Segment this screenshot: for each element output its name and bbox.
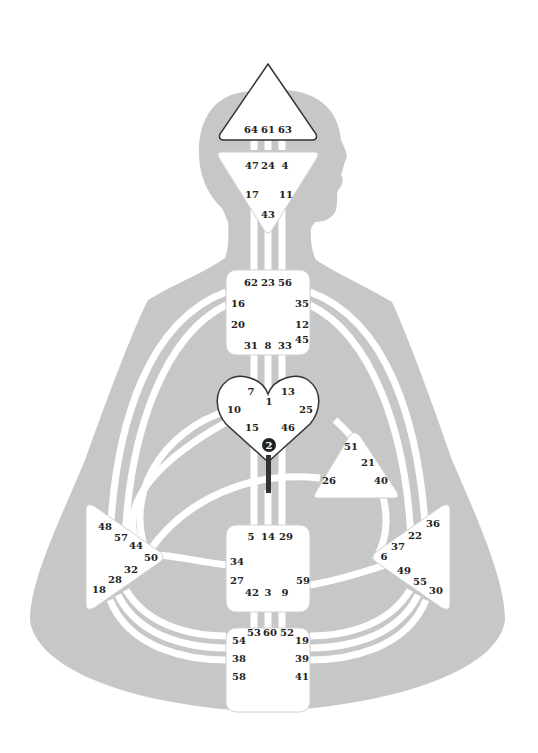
gate-61: 61 bbox=[261, 124, 275, 135]
active-channel-2 bbox=[266, 455, 271, 493]
gate-62: 62 bbox=[244, 277, 258, 288]
gate-53: 53 bbox=[247, 627, 261, 638]
gate-46: 46 bbox=[281, 422, 295, 433]
gate-52: 52 bbox=[280, 627, 294, 638]
gate-36: 36 bbox=[426, 518, 440, 529]
gate-43: 43 bbox=[261, 209, 275, 220]
gate-55: 55 bbox=[413, 576, 427, 587]
gate-18: 18 bbox=[92, 584, 106, 595]
gate-60: 60 bbox=[263, 627, 277, 638]
gate-23: 23 bbox=[261, 277, 275, 288]
gate-21: 21 bbox=[361, 457, 375, 468]
gate-15: 15 bbox=[245, 422, 259, 433]
gate-19: 19 bbox=[295, 635, 309, 646]
gate-22: 22 bbox=[408, 530, 422, 541]
gate-20: 20 bbox=[231, 319, 245, 330]
gate-50: 50 bbox=[144, 552, 158, 563]
gate-33: 33 bbox=[278, 340, 292, 351]
gate-38: 38 bbox=[232, 653, 246, 664]
gate-64: 64 bbox=[244, 124, 258, 135]
gate-45: 45 bbox=[295, 334, 309, 345]
gate-12: 12 bbox=[295, 319, 309, 330]
gate-27: 27 bbox=[230, 575, 244, 586]
root-center[interactable]: 53 60 52 54 19 38 39 58 41 bbox=[226, 627, 310, 712]
gate-41: 41 bbox=[295, 671, 309, 682]
gate-24: 24 bbox=[261, 160, 275, 171]
gate-13: 13 bbox=[281, 386, 295, 397]
gate-5: 5 bbox=[248, 531, 255, 542]
gate-9: 9 bbox=[282, 587, 289, 598]
gate-48: 48 bbox=[98, 521, 112, 532]
gate-47: 47 bbox=[245, 160, 259, 171]
gate-58: 58 bbox=[232, 671, 246, 682]
gate-42: 42 bbox=[245, 587, 259, 598]
gate-30: 30 bbox=[429, 585, 443, 596]
gate-6: 6 bbox=[381, 551, 388, 562]
gate-28: 28 bbox=[108, 574, 122, 585]
gate-10: 10 bbox=[227, 404, 241, 415]
gate-59: 59 bbox=[296, 575, 310, 586]
gate-11: 11 bbox=[279, 189, 293, 200]
gate-8: 8 bbox=[265, 340, 272, 351]
gate-31: 31 bbox=[244, 340, 258, 351]
gate-17: 17 bbox=[245, 189, 259, 200]
gate-39: 39 bbox=[295, 653, 309, 664]
gate-37: 37 bbox=[391, 541, 405, 552]
gate-40: 40 bbox=[374, 475, 388, 486]
gate-57: 57 bbox=[114, 532, 128, 543]
gate-56: 56 bbox=[278, 277, 292, 288]
gate-35: 35 bbox=[295, 298, 309, 309]
gate-4: 4 bbox=[282, 160, 289, 171]
gate-3: 3 bbox=[265, 587, 272, 598]
gate-14: 14 bbox=[261, 531, 275, 542]
gate-26: 26 bbox=[322, 475, 336, 486]
gate-1: 1 bbox=[266, 396, 273, 407]
gate-32: 32 bbox=[124, 564, 138, 575]
gate-7: 7 bbox=[248, 386, 255, 397]
gate-34: 34 bbox=[230, 556, 244, 567]
gate-29: 29 bbox=[279, 531, 293, 542]
gate-16: 16 bbox=[231, 298, 245, 309]
gate-2: 2 bbox=[266, 440, 273, 451]
gate-63: 63 bbox=[278, 124, 292, 135]
gate-54: 54 bbox=[232, 635, 246, 646]
gate-44: 44 bbox=[129, 540, 143, 551]
throat-center[interactable]: 62 23 56 16 35 20 12 45 31 8 33 bbox=[226, 270, 310, 355]
gate-51: 51 bbox=[344, 441, 358, 452]
gate-49: 49 bbox=[397, 565, 411, 576]
bodygraph-diagram: 64 61 63 47 24 4 17 11 43 62 23 56 16 35… bbox=[0, 0, 538, 753]
sacral-center[interactable]: 5 14 29 34 27 59 42 3 9 bbox=[226, 525, 310, 612]
gate-25: 25 bbox=[299, 404, 313, 415]
